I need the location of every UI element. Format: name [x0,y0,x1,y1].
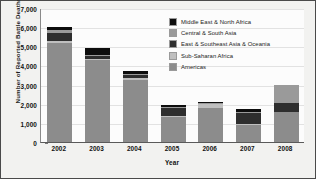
bar-2004 [123,71,148,142]
bar-segment [236,112,261,113]
legend-swatch-icon [169,18,177,26]
bar-segment [274,112,299,142]
y-axis-tick-labels: 01,0002,0003,0004,0005,0006,0007,000 [9,9,37,143]
bar-segment [85,48,110,54]
legend-item: Americas [169,62,299,73]
legend-item: East & Southeast Asia & Oceania [169,39,299,50]
bar-2008 [274,85,299,142]
x-axis-tick-labels: 2002200320042005200620072008 [40,145,304,157]
bar-segment [123,74,148,75]
x-tick-label: 2008 [265,145,305,152]
bar-segment [198,108,223,142]
legend-label: Central & South Asia [181,30,236,36]
bar-segment [47,33,72,41]
legend-swatch-icon [169,52,177,60]
bar-segment [236,124,261,125]
plot-area: Middle East & North AfricaCentral & Sout… [40,9,304,143]
y-tick-label: 0 [9,140,37,147]
legend-label: Middle East & North Africa [181,19,251,25]
x-tick-label: 2004 [114,145,154,152]
bar-segment [274,85,299,103]
legend-item: Sub-Saharan Africa [169,50,299,61]
x-tick-label: 2007 [227,145,267,152]
y-tick-label: 5,000 [9,44,37,51]
bar-segment [161,108,186,116]
chart-figure: Number of Reported Battle Deaths 01,0002… [0,0,316,179]
bar-segment [123,75,148,78]
bar-segment [123,80,148,142]
legend-swatch-icon [169,63,177,71]
bar-2003 [85,48,110,142]
legend-item: Central & South Asia [169,27,299,38]
bar-2005 [161,105,186,142]
bar-segment [85,55,110,56]
legend-label: Americas [181,64,206,70]
bar-segment [85,56,110,59]
bar-segment [161,107,186,108]
y-tick-label: 4,000 [9,63,37,70]
x-tick-label: 2002 [39,145,79,152]
y-tick-label: 7,000 [9,6,37,13]
bar-segment [161,105,186,107]
y-tick-label: 6,000 [9,25,37,32]
bar-segment [274,103,299,113]
bar-segment [198,103,223,108]
bar-segment [161,117,186,142]
bar-segment [47,27,72,30]
legend-swatch-icon [169,40,177,48]
bar-segment [236,125,261,142]
bar-2002 [47,27,72,142]
legend-label: East & Southeast Asia & Oceania [181,41,270,47]
bar-segment [198,102,223,103]
gridline [41,9,304,10]
y-tick-mark [45,143,48,144]
bar-segment [85,59,110,61]
legend-item: Middle East & North Africa [169,16,299,27]
legend-swatch-icon [169,29,177,37]
bar-segment [236,109,261,112]
y-tick-label: 1,000 [9,120,37,127]
bar-segment [47,30,72,32]
legend-label: Sub-Saharan Africa [181,53,233,59]
chart-legend: Middle East & North AfricaCentral & Sout… [169,16,299,73]
bar-2007 [236,109,261,143]
bar-segment [236,113,261,124]
bar-segment [161,116,186,117]
bar-segment [47,41,72,43]
x-tick-label: 2003 [77,145,117,152]
bar-segment [123,71,148,74]
bar-segment [47,43,72,142]
bar-2006 [198,102,223,142]
x-tick-label: 2005 [152,145,192,152]
gridline [41,86,304,87]
x-tick-label: 2006 [190,145,230,152]
bar-segment [123,78,148,79]
y-tick-label: 3,000 [9,82,37,89]
x-axis-title: Year [40,159,304,166]
y-tick-label: 2,000 [9,101,37,108]
bar-segment [85,60,110,142]
